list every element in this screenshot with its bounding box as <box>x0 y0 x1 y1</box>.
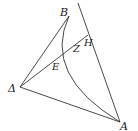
geometric-diagram: B H Z E Δ A <box>0 0 138 131</box>
label-z: Z <box>72 43 81 54</box>
label-a: A <box>119 120 128 131</box>
label-delta: Δ <box>7 82 16 95</box>
line-b-delta <box>20 16 69 87</box>
label-e: E <box>51 61 60 72</box>
label-h: H <box>83 37 93 48</box>
curve-b-e-a <box>62 16 120 122</box>
label-b: B <box>59 6 68 19</box>
line-b-a <box>78 3 120 122</box>
line-delta-a <box>20 87 120 122</box>
